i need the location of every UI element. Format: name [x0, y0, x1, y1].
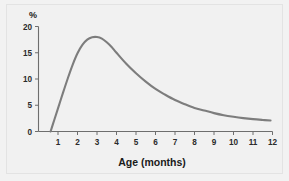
y-axis-label: % — [29, 10, 37, 20]
x-tick-label: 1 — [56, 138, 61, 147]
y-tick-label: 10 — [23, 75, 33, 84]
x-tick-label: 11 — [249, 138, 258, 147]
y-tick-label: 20 — [23, 23, 33, 32]
chart-figure: 05101520 123456789101112 % Age (months) — [0, 0, 289, 181]
x-tick-label: 5 — [134, 138, 139, 147]
x-tick-label: 9 — [212, 138, 217, 147]
y-tick-group: 05101520 — [23, 23, 39, 137]
x-tick-label: 12 — [268, 138, 278, 147]
data-curve — [51, 37, 271, 132]
x-tick-label: 7 — [173, 138, 178, 147]
x-tick-group: 123456789101112 — [56, 132, 278, 147]
x-tick-label: 8 — [192, 138, 197, 147]
data-curve-group — [51, 37, 271, 132]
x-tick-label: 6 — [153, 138, 158, 147]
x-tick-label: 2 — [75, 138, 80, 147]
y-tick-label: 0 — [27, 128, 32, 137]
x-tick-label: 10 — [229, 138, 239, 147]
x-tick-label: 4 — [114, 138, 119, 147]
x-tick-label: 3 — [95, 138, 100, 147]
x-axis-label: Age (months) — [118, 156, 186, 168]
line-chart-plot: 05101520 123456789101112 % Age (months) — [0, 0, 289, 181]
axes-group — [39, 27, 273, 132]
y-tick-label: 15 — [23, 49, 33, 58]
y-tick-label: 5 — [27, 101, 32, 110]
